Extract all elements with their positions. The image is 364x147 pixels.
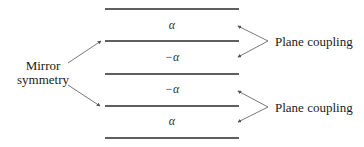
- mirror-arrow-lower: [68, 85, 100, 106]
- layer-label-4: α: [169, 114, 176, 128]
- plane-coupling-label-upper: Plane coupling: [275, 34, 353, 49]
- plane-coupling-annotation-upper: Plane coupling: [238, 26, 353, 57]
- coupling-arrow-lower-a: [238, 91, 268, 107]
- coupling-arrow-lower-b: [238, 107, 268, 122]
- layer-label-3: −α: [165, 82, 180, 96]
- layer-diagram: α −α −α α Mirror symmetry Plane coupling…: [0, 0, 364, 147]
- mirror-symmetry-label-line1: Mirror: [26, 58, 61, 73]
- layer-label-1: α: [169, 18, 176, 32]
- layer-label-2: −α: [165, 50, 180, 64]
- mirror-arrow-upper: [68, 41, 101, 63]
- plane-coupling-label-lower: Plane coupling: [275, 100, 353, 115]
- coupling-arrow-upper-a: [238, 26, 268, 41]
- mirror-symmetry-label-line2: symmetry: [17, 72, 69, 87]
- plane-coupling-annotation-lower: Plane coupling: [238, 91, 353, 122]
- coupling-arrow-upper-b: [238, 41, 268, 57]
